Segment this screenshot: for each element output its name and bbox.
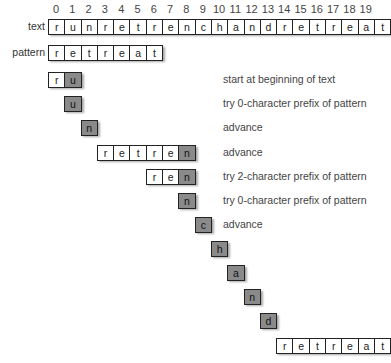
char-cell: u	[64, 96, 81, 112]
index-label: 4	[113, 3, 129, 15]
index-label: 9	[195, 3, 211, 15]
char-cell: t	[147, 45, 163, 61]
char-cell: e	[293, 338, 309, 354]
char-cell: e	[114, 19, 130, 35]
char-cell: t	[375, 19, 391, 35]
char-cell: r	[147, 145, 163, 161]
index-label: 8	[178, 3, 194, 15]
pattern-row: retreat	[48, 45, 163, 60]
step-row: a	[227, 265, 244, 280]
step-row: retreat	[276, 338, 391, 353]
char-cell: t	[375, 338, 391, 354]
index-label: 10	[211, 3, 227, 15]
step-note: advance	[223, 218, 263, 230]
char-cell: r	[147, 19, 163, 35]
step-row: n	[178, 193, 195, 208]
index-label: 11	[227, 3, 243, 15]
index-label: 0	[48, 3, 64, 15]
char-cell: r	[98, 45, 114, 61]
char-cell: e	[293, 19, 309, 35]
char-cell: r	[146, 169, 163, 185]
char-cell: e	[342, 338, 358, 354]
char-cell: e	[65, 45, 81, 61]
char-cell: r	[48, 45, 65, 61]
char-cell: n	[81, 120, 98, 136]
index-label: 2	[81, 3, 97, 15]
char-cell: e	[163, 19, 179, 35]
index-label: 18	[341, 3, 357, 15]
char-cell: t	[130, 145, 146, 161]
step-note: try 0-character prefix of pattern	[223, 194, 367, 206]
char-cell: a	[130, 45, 146, 61]
char-cell: t	[310, 338, 326, 354]
char-cell: r	[48, 19, 65, 35]
step-note: try 0-character prefix of pattern	[223, 97, 367, 109]
char-cell: r	[98, 19, 114, 35]
index-label: 14	[276, 3, 292, 15]
step-note: try 2-character prefix of pattern	[223, 170, 367, 182]
step-row: retren	[97, 145, 196, 160]
step-note: advance	[223, 146, 263, 158]
char-cell: e	[342, 19, 358, 35]
char-cell: a	[227, 265, 244, 281]
index-label: 19	[358, 3, 374, 15]
step-row: d	[260, 313, 277, 328]
text-label: text	[28, 20, 45, 32]
index-label: 6	[146, 3, 162, 15]
char-cell: t	[82, 45, 98, 61]
char-cell: t	[310, 19, 326, 35]
char-cell: c	[195, 217, 212, 233]
char-cell: n	[244, 289, 261, 305]
char-cell: a	[359, 19, 375, 35]
char-cell: r	[276, 338, 293, 354]
index-label: 15	[293, 3, 309, 15]
char-cell: h	[211, 241, 228, 257]
char-cell: n	[179, 19, 195, 35]
char-cell: u	[65, 19, 81, 35]
index-label: 5	[130, 3, 146, 15]
step-row: ren	[146, 169, 196, 184]
char-cell: a	[228, 19, 244, 35]
char-cell: u	[65, 72, 81, 88]
step-row: n	[81, 120, 98, 135]
char-cell: n	[179, 145, 195, 161]
char-cell: r	[326, 338, 342, 354]
char-cell: r	[97, 145, 114, 161]
char-cell: d	[260, 313, 277, 329]
char-cell: t	[130, 19, 146, 35]
index-label: 16	[309, 3, 325, 15]
char-cell: n	[179, 169, 195, 185]
char-cell: n	[82, 19, 98, 35]
index-label: 12	[244, 3, 260, 15]
char-cell: r	[48, 72, 65, 88]
step-row: c	[195, 217, 212, 232]
index-label: 1	[64, 3, 80, 15]
char-cell: r	[326, 19, 342, 35]
char-cell: e	[163, 145, 179, 161]
char-cell: n	[178, 193, 195, 209]
pattern-label: pattern	[12, 46, 45, 58]
char-cell: a	[359, 338, 375, 354]
step-row: n	[244, 289, 261, 304]
char-cell: d	[261, 19, 277, 35]
char-cell: e	[114, 45, 130, 61]
step-row: u	[64, 96, 81, 111]
index-label: 7	[162, 3, 178, 15]
step-row: h	[211, 241, 228, 256]
index-label: 3	[97, 3, 113, 15]
index-label: 17	[325, 3, 341, 15]
text-row: runretrenchandretreat	[48, 19, 391, 34]
step-row: ru	[48, 72, 82, 87]
char-cell: e	[114, 145, 130, 161]
index-label: 13	[260, 3, 276, 15]
char-cell: h	[212, 19, 228, 35]
char-cell: c	[196, 19, 212, 35]
char-cell: n	[245, 19, 261, 35]
char-cell: r	[277, 19, 293, 35]
step-note: start at beginning of text	[223, 73, 335, 85]
step-note: advance	[223, 121, 263, 133]
char-cell: e	[163, 169, 179, 185]
